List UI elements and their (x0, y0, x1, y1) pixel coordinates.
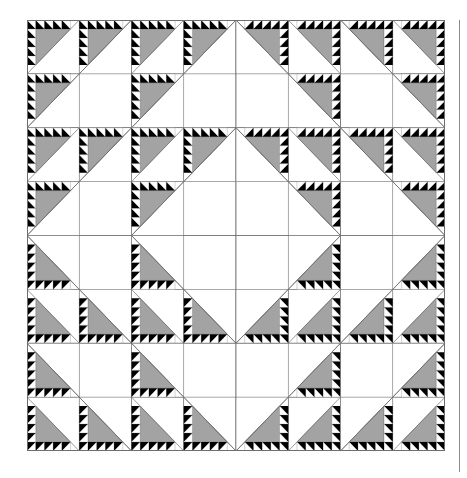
sawtooth-unit (288, 128, 340, 182)
quilt-block (27, 343, 132, 451)
quilt-block (341, 20, 446, 128)
quilt-block (132, 343, 237, 451)
quilt-block (236, 236, 341, 344)
sawtooth-unit (393, 289, 445, 343)
sawtooth-unit (132, 289, 184, 343)
quilt-block (27, 236, 132, 344)
sawtooth-unit (288, 20, 340, 74)
sawtooth-unit (393, 20, 445, 74)
quilt-block (132, 236, 237, 344)
quilt-block (341, 343, 446, 451)
quilt-block (132, 128, 237, 236)
sawtooth-unit (132, 128, 184, 182)
quilt-block (236, 343, 341, 451)
quilt-block (27, 128, 132, 236)
quilt-block (236, 20, 341, 128)
sawtooth-unit (132, 397, 184, 451)
sawtooth-unit (27, 289, 79, 343)
sawtooth-unit (288, 289, 340, 343)
vertical-rule (459, 20, 460, 472)
quilt-block (341, 236, 446, 344)
sawtooth-unit (393, 397, 445, 451)
sawtooth-unit (393, 128, 445, 182)
sawtooth-unit (27, 397, 79, 451)
quilt-block (27, 20, 132, 128)
quilt-svg (27, 20, 445, 451)
quilt-pattern (27, 20, 445, 451)
sawtooth-unit (288, 397, 340, 451)
quilt-block (341, 128, 446, 236)
sawtooth-unit (27, 128, 79, 182)
quilt-block (236, 128, 341, 236)
quilt-block (132, 20, 237, 128)
sawtooth-unit (132, 20, 184, 74)
sawtooth-unit (27, 20, 79, 74)
